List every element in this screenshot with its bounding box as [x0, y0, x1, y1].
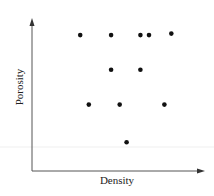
data-point [138, 33, 143, 38]
data-point [87, 102, 92, 107]
data-point [138, 68, 143, 73]
x-axis-label: Density [0, 174, 214, 186]
scatter-plot [0, 0, 214, 196]
data-point [78, 33, 83, 38]
data-point [109, 33, 114, 38]
data-points [78, 31, 174, 144]
data-point [162, 102, 167, 107]
data-point [117, 102, 122, 107]
data-point [124, 140, 129, 145]
data-point [147, 33, 152, 38]
x-axis-arrow-icon [197, 169, 205, 174]
data-point [109, 68, 114, 73]
axes [30, 18, 206, 174]
data-point [169, 31, 174, 36]
y-axis-arrow-icon [30, 18, 35, 26]
y-axis-label: Porosity [13, 69, 25, 106]
